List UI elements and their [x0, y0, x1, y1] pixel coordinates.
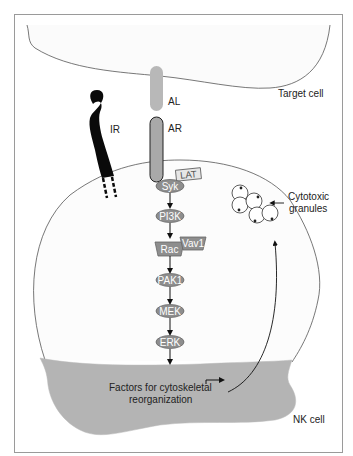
nk-cell-signaling-diagram: Target cell NK cell AL AR IR LAT Syk PI3…	[0, 0, 353, 456]
al-label: AL	[168, 96, 181, 107]
activating-ligand-al	[150, 66, 163, 111]
nk-cell-label: NK cell	[293, 414, 325, 425]
pi3k-label: PI3K	[159, 211, 181, 222]
factors-label-line1: Factors for cytoskeletal	[109, 382, 212, 393]
rac-label: Rac	[161, 244, 179, 255]
factors-label-line2: reorganization	[129, 394, 192, 405]
cytotoxic-label: Cytotoxic	[288, 191, 329, 202]
mek-label: MEK	[159, 306, 181, 317]
ir-label: IR	[110, 124, 120, 135]
target-cell-label: Target cell	[278, 88, 324, 99]
ar-label: AR	[168, 123, 182, 134]
syk-label: Syk	[162, 181, 180, 192]
activating-receptor-ar	[150, 117, 163, 182]
erk-label: ERK	[160, 337, 181, 348]
granules-label: granules	[289, 203, 327, 214]
lat-node: LAT	[175, 168, 201, 182]
vav1-label: Vav1	[182, 238, 204, 249]
pak1-label: PAK1	[158, 275, 183, 286]
lat-label: LAT	[180, 168, 198, 181]
